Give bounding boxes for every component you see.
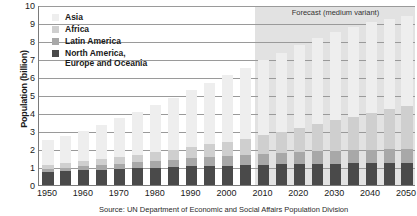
y-axis-tick: 7 xyxy=(30,55,35,65)
legend-label: Latin America xyxy=(65,36,121,46)
bar-segment xyxy=(348,117,359,150)
bar-segment xyxy=(222,142,233,157)
bar-segment xyxy=(186,166,197,185)
bar-segment xyxy=(330,164,341,185)
legend-swatch-icon xyxy=(52,26,59,33)
x-axis-tick: 1990 xyxy=(181,188,201,198)
y-axis-title: Population (billion) xyxy=(19,24,29,154)
bar-segment xyxy=(348,150,359,163)
legend-item-0: Asia xyxy=(52,12,147,22)
bar-segment xyxy=(96,125,107,159)
bar-1975 xyxy=(132,112,143,185)
bar-segment xyxy=(276,153,287,164)
bar-1955 xyxy=(60,136,71,185)
y-axis-tick: 6 xyxy=(30,73,35,83)
bar-2050 xyxy=(401,16,412,185)
bar-segment xyxy=(78,170,89,185)
legend-swatch-icon xyxy=(52,38,59,45)
bar-segment xyxy=(294,45,305,128)
bar-1995 xyxy=(204,83,215,185)
legend-item-2: Latin America xyxy=(52,36,147,46)
bar-segment xyxy=(78,131,89,162)
bar-segment xyxy=(258,60,269,135)
bar-segment xyxy=(401,163,412,185)
bar-segment xyxy=(258,165,269,185)
x-axis-tick: 1980 xyxy=(145,188,165,198)
bar-segment xyxy=(312,124,323,151)
x-axis-tick: 2050 xyxy=(396,188,416,198)
bar-segment xyxy=(366,113,377,150)
legend-item-3: North America, Europe and Oceania xyxy=(52,48,147,68)
bar-segment xyxy=(276,164,287,185)
bar-1950 xyxy=(42,140,53,185)
bar-segment xyxy=(222,166,233,185)
bar-segment xyxy=(366,163,377,185)
bar-segment xyxy=(312,38,323,124)
bar-segment xyxy=(204,144,215,157)
source-caption: Source: UN Department of Economic and So… xyxy=(99,205,348,214)
x-axis-tick: 1970 xyxy=(109,188,129,198)
bar-segment xyxy=(294,128,305,152)
population-stacked-bar-chart: Population (billion) Forecast (medium va… xyxy=(0,0,417,216)
bar-segment xyxy=(204,166,215,185)
bar-segment xyxy=(132,168,143,185)
bar-segment xyxy=(401,106,412,149)
bar-segment xyxy=(60,171,71,185)
bar-segment xyxy=(96,170,107,185)
bar-segment xyxy=(384,149,395,163)
bar-segment xyxy=(42,140,53,165)
x-axis-tick: 2000 xyxy=(216,188,236,198)
bar-segment xyxy=(168,167,179,185)
bar-segment xyxy=(42,172,53,185)
bar-2025 xyxy=(312,38,323,185)
x-axis-tick: 2010 xyxy=(252,188,272,198)
bar-segment xyxy=(276,53,287,132)
bar-segment xyxy=(401,149,412,163)
y-axis-tick: 8 xyxy=(30,37,35,47)
legend-item-1: Africa xyxy=(52,24,147,34)
bar-segment xyxy=(366,150,377,164)
legend-label: North America, Europe and Oceania xyxy=(65,48,147,68)
bar-segment xyxy=(186,90,197,147)
bar-segment xyxy=(204,157,215,166)
y-axis-tick: 0 xyxy=(30,181,35,191)
bar-segment xyxy=(168,98,179,150)
chart-legend: AsiaAfricaLatin AmericaNorth America, Eu… xyxy=(52,12,147,68)
bar-1960 xyxy=(78,131,89,185)
bar-segment xyxy=(240,165,251,185)
bar-2000 xyxy=(222,75,233,185)
legend-label: Africa xyxy=(65,24,89,34)
bar-segment xyxy=(186,147,197,158)
x-axis-tick: 1950 xyxy=(37,188,57,198)
bar-segment xyxy=(384,19,395,109)
bar-2045 xyxy=(384,19,395,185)
bar-segment xyxy=(401,16,412,106)
bar-segment xyxy=(348,27,359,117)
bar-segment xyxy=(150,152,161,161)
bar-segment xyxy=(60,136,71,164)
bar-2020 xyxy=(294,45,305,185)
bar-1990 xyxy=(186,90,197,185)
bar-segment xyxy=(294,164,305,185)
bar-1980 xyxy=(150,105,161,185)
legend-label: Asia xyxy=(65,12,83,22)
bar-2015 xyxy=(276,53,287,185)
bar-segment xyxy=(150,168,161,185)
bar-segment xyxy=(330,32,341,120)
x-axis-tick: 2020 xyxy=(288,188,308,198)
bar-2035 xyxy=(348,27,359,185)
bar-segment xyxy=(204,83,215,145)
bar-segment xyxy=(222,75,233,141)
y-axis-tick: 3 xyxy=(30,127,35,137)
x-axis-tick: 1960 xyxy=(73,188,93,198)
y-axis-tick: 1 xyxy=(30,163,35,173)
bar-segment xyxy=(222,156,233,165)
bar-segment xyxy=(384,109,395,149)
bar-segment xyxy=(276,132,287,153)
bar-1970 xyxy=(114,118,125,185)
x-axis-tick: 2040 xyxy=(360,188,380,198)
bar-segment xyxy=(348,163,359,185)
bar-2040 xyxy=(366,22,377,185)
bar-segment xyxy=(132,155,143,163)
y-axis-tick: 2 xyxy=(30,145,35,155)
